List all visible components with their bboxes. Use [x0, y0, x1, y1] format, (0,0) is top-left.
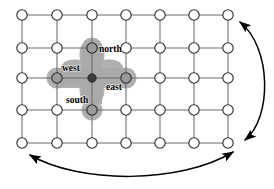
grid-node-r1-c0: [17, 43, 27, 53]
grid-node-r2-c6: [223, 73, 233, 83]
grid-node-r4-c6: [223, 138, 233, 148]
node-south: [87, 105, 97, 115]
node-north: [87, 43, 97, 53]
grid-node-r0-c5: [189, 10, 199, 20]
label-west: west: [62, 63, 81, 73]
node-west: [52, 73, 62, 83]
grid-node-r3-c3: [121, 105, 131, 115]
label-south: south: [66, 95, 89, 105]
node-east: [121, 73, 131, 83]
grid-node-r1-c5: [189, 43, 199, 53]
grid-node-r0-c6: [223, 10, 233, 20]
grid-node-r4-c3: [121, 138, 131, 148]
grid-node-r4-c5: [189, 138, 199, 148]
grid-node-r2-c5: [189, 73, 199, 83]
grid-node-r1-c4: [155, 43, 165, 53]
grid-node-r3-c0: [17, 105, 27, 115]
label-east: east: [106, 82, 123, 92]
grid-node-r1-c6: [223, 43, 233, 53]
grid-node-r3-c1: [52, 105, 62, 115]
grid-node-r3-c5: [189, 105, 199, 115]
grid-node-r0-c3: [121, 10, 131, 20]
grid-node-r3-c4: [155, 105, 165, 115]
figure-root: northwesteastsouth: [0, 0, 274, 189]
label-north: north: [99, 44, 122, 54]
grid-node-r2-c4: [155, 73, 165, 83]
grid-node-r4-c1: [52, 138, 62, 148]
grid-node-r0-c2: [87, 10, 97, 20]
grid-node-r1-c1: [52, 43, 62, 53]
grid-node-r4-c2: [87, 138, 97, 148]
grid-node-r2-c0: [17, 73, 27, 83]
grid-node-r1-c3: [121, 43, 131, 53]
grid-node-r0-c0: [17, 10, 27, 20]
grid-node-r4-c0: [17, 138, 27, 148]
torus-grid-diagram: northwesteastsouth: [0, 0, 274, 189]
grid-node-r4-c4: [155, 138, 165, 148]
grid-node-r0-c4: [155, 10, 165, 20]
grid-node-r0-c1: [52, 10, 62, 20]
grid-node-r3-c6: [223, 105, 233, 115]
node-center: [88, 74, 96, 82]
